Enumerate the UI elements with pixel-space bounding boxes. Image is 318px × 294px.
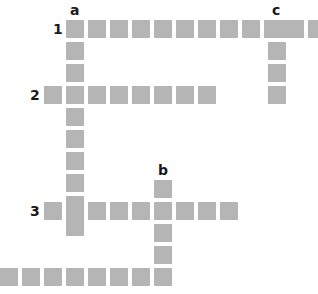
grid-cell-across-3[interactable] (44, 202, 62, 220)
grid-cell-down-b[interactable] (154, 224, 172, 242)
grid-cell-down-a[interactable] (66, 130, 84, 148)
grid-cell-down-a[interactable] (66, 174, 84, 192)
grid-cell-across-3[interactable] (110, 202, 128, 220)
grid-cell-down-a[interactable] (66, 64, 84, 82)
grid-cell-down-a[interactable] (66, 108, 84, 126)
grid-cell-down-a[interactable] (66, 196, 84, 214)
crossword-grid: acb123 (0, 0, 318, 294)
label-b: b (158, 163, 168, 177)
grid-cell-across-bottom[interactable] (154, 268, 172, 286)
grid-cell-across-bottom[interactable] (66, 268, 84, 286)
grid-cell-across-1[interactable] (66, 20, 84, 38)
grid-cell-across-2[interactable] (110, 86, 128, 104)
grid-cell-across-bottom[interactable] (88, 268, 106, 286)
grid-cell-down-c[interactable] (268, 42, 286, 60)
grid-cell-across-2[interactable] (176, 86, 194, 104)
grid-cell-across-2[interactable] (66, 86, 84, 104)
grid-cell-across-3[interactable] (198, 202, 216, 220)
grid-cell-down-c[interactable] (268, 20, 286, 38)
grid-cell-across-3[interactable] (132, 202, 150, 220)
grid-cell-across-1[interactable] (308, 20, 318, 38)
grid-cell-across-bottom[interactable] (44, 268, 62, 286)
grid-cell-across-bottom[interactable] (132, 268, 150, 286)
grid-cell-down-b[interactable] (154, 180, 172, 198)
grid-cell-across-1[interactable] (242, 20, 260, 38)
grid-cell-down-a[interactable] (66, 218, 84, 236)
grid-cell-across-bottom[interactable] (110, 268, 128, 286)
grid-cell-down-c[interactable] (268, 86, 286, 104)
grid-cell-across-1[interactable] (110, 20, 128, 38)
grid-cell-across-2[interactable] (154, 86, 172, 104)
grid-cell-across-1[interactable] (154, 20, 172, 38)
grid-cell-across-1[interactable] (198, 20, 216, 38)
grid-cell-across-2[interactable] (44, 86, 62, 104)
label-1: 1 (53, 22, 63, 36)
grid-cell-across-1[interactable] (88, 20, 106, 38)
grid-cell-across-2[interactable] (198, 86, 216, 104)
grid-cell-across-bottom[interactable] (22, 268, 40, 286)
grid-cell-down-c[interactable] (268, 64, 286, 82)
grid-cell-across-1[interactable] (220, 20, 238, 38)
label-c: c (272, 3, 280, 17)
grid-cell-across-2[interactable] (132, 86, 150, 104)
grid-cell-across-1[interactable] (132, 20, 150, 38)
grid-cell-down-b[interactable] (154, 246, 172, 264)
label-a: a (70, 3, 79, 17)
grid-cell-across-3[interactable] (154, 202, 172, 220)
grid-cell-across-3[interactable] (220, 202, 238, 220)
grid-cell-across-3[interactable] (176, 202, 194, 220)
grid-cell-down-a[interactable] (66, 42, 84, 60)
grid-cell-down-a[interactable] (66, 152, 84, 170)
grid-cell-across-1[interactable] (286, 20, 304, 38)
grid-cell-across-2[interactable] (88, 86, 106, 104)
grid-cell-across-3[interactable] (88, 202, 106, 220)
label-3: 3 (30, 204, 40, 218)
label-2: 2 (30, 88, 40, 102)
grid-cell-across-1[interactable] (176, 20, 194, 38)
grid-cell-across-bottom[interactable] (0, 268, 18, 286)
